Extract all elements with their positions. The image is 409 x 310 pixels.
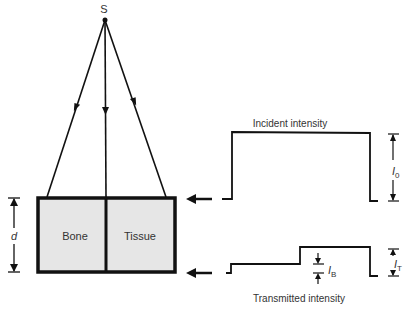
transmitted-side-arrow	[186, 268, 212, 278]
bone-intensity-symbol: IB	[328, 264, 336, 279]
incident-symbol: I0	[392, 165, 400, 180]
tissue-label: Tissue	[124, 230, 156, 242]
bone-intensity-dimension	[313, 253, 324, 284]
source-label: S	[100, 3, 107, 15]
bone-label: Bone	[62, 230, 88, 242]
incident-intensity-label: Incident intensity	[253, 118, 328, 129]
bone-intensity-arrowheads	[315, 258, 321, 279]
attenuation-diagram: S Bone Tissue d Incident intensity	[0, 0, 409, 310]
transmitted-intensity-label: Transmitted intensity	[253, 293, 345, 304]
thickness-label: d	[11, 230, 18, 242]
incident-intensity-profile	[222, 132, 378, 201]
transmitted-intensity-profile	[226, 247, 378, 276]
incident-side-arrow	[186, 194, 212, 204]
